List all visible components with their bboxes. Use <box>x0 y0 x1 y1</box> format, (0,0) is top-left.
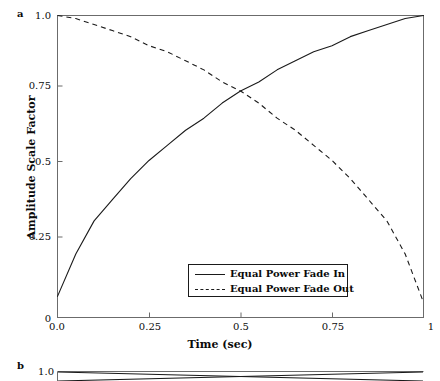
legend-label-fade-out: Equal Power Fade Out <box>226 284 354 294</box>
legend-label-fade-in: Equal Power Fade In <box>226 269 345 279</box>
legend: Equal Power Fade In Equal Power Fade Out <box>188 264 348 297</box>
legend-item-fade-in: Equal Power Fade In <box>194 266 345 281</box>
x-tick-marks <box>58 313 424 318</box>
curve-equal-power-fade-out <box>58 16 424 303</box>
plot-canvas <box>0 0 440 381</box>
figure-panel-a-and-b: a b Time (sec) Amplitude Scale Factor 1.… <box>0 0 440 381</box>
curve-equal-power-fade-in <box>58 16 424 297</box>
y-tick-marks <box>58 16 63 318</box>
legend-dashed-line-sample <box>194 284 226 294</box>
legend-item-fade-out: Equal Power Fade Out <box>194 281 354 296</box>
legend-solid-line-sample <box>194 269 226 279</box>
